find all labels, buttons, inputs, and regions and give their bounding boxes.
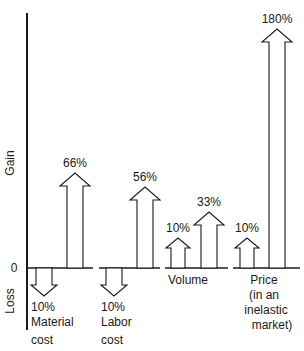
group-material-cost: 10% 66% Material cost bbox=[27, 156, 93, 347]
group-labor-cost: 10% 56% Labor cost bbox=[99, 170, 160, 347]
arrow-up-price-gain bbox=[262, 29, 292, 268]
caption-material-line-1: Material bbox=[31, 315, 74, 329]
zero-tick-label: 0 bbox=[11, 261, 18, 275]
arrow-down-labor-change bbox=[101, 268, 127, 296]
gain-axis-label: Gain bbox=[3, 150, 17, 175]
label-material-gain: 66% bbox=[63, 156, 87, 170]
arrow-up-volume-change bbox=[166, 238, 190, 268]
arrow-up-labor-gain bbox=[130, 187, 160, 268]
caption-price-line-4: market) bbox=[252, 318, 293, 332]
label-material-change: 10% bbox=[31, 300, 55, 314]
label-price-gain: 180% bbox=[262, 12, 293, 26]
caption-labor-line-2: cost bbox=[101, 333, 124, 347]
arrow-down-material-change bbox=[31, 268, 57, 296]
arrow-up-price-change bbox=[235, 238, 259, 268]
caption-price-line-1: Price bbox=[250, 273, 278, 287]
label-labor-gain: 56% bbox=[133, 170, 157, 184]
caption-labor-line-1: Labor bbox=[101, 315, 132, 329]
loss-axis-label: Loss bbox=[3, 288, 17, 313]
group-price: 10% 180% Price (in an inelastic market) bbox=[233, 12, 300, 332]
profit-leverage-chart: 0 Gain Loss 10% 66% Material cost 10% bbox=[0, 0, 304, 351]
label-labor-change: 10% bbox=[101, 300, 125, 314]
caption-volume-line-1: Volume bbox=[168, 273, 208, 287]
label-price-change: 10% bbox=[235, 221, 259, 235]
arrow-up-material-gain bbox=[60, 173, 90, 268]
label-volume-change: 10% bbox=[166, 221, 190, 235]
caption-price-line-2: (in an bbox=[249, 288, 279, 302]
arrow-up-volume-gain bbox=[194, 212, 224, 268]
group-volume: 10% 33% Volume bbox=[165, 195, 228, 287]
label-volume-gain: 33% bbox=[197, 195, 221, 209]
caption-price-line-3: inelastic bbox=[244, 303, 287, 317]
chart-canvas: 0 Gain Loss 10% 66% Material cost 10% bbox=[0, 0, 304, 351]
caption-material-line-2: cost bbox=[31, 333, 54, 347]
